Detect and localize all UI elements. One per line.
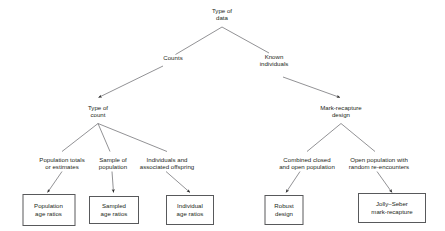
terminal-jolly-seber-mark-recapture[interactable]: Jolly–Seber mark-recapture xyxy=(358,193,426,223)
edge-mark-recapture-to-open-population-random xyxy=(341,124,375,152)
edge-counts-to-type-of-count xyxy=(99,66,164,98)
node-type-of-count: Type of count xyxy=(66,104,130,119)
edge-known-individuals-to-mark-recapture xyxy=(283,77,340,98)
node-counts: Counts xyxy=(145,54,201,61)
terminal-individual-age-ratios[interactable]: Individual age ratios xyxy=(166,195,214,225)
terminal-robust-design[interactable]: Robust design xyxy=(265,195,304,225)
edge-sample-of-population-to-sampled-age-ratios xyxy=(112,172,114,193)
edge-population-totals-to-population-age-ratios xyxy=(48,172,63,193)
edge-mark-recapture-to-combined-closed-open xyxy=(307,124,341,152)
terminal-population-age-ratios[interactable]: Population age ratios xyxy=(22,194,75,226)
terminal-sampled-age-ratios[interactable]: Sampled age ratios xyxy=(89,196,139,224)
edge-type-of-count-to-population-totals xyxy=(62,124,98,152)
node-individuals-and-associated-offspring: Individuals and associated offspring xyxy=(124,156,210,171)
edge-combined-closed-open-to-robust-design xyxy=(286,172,300,193)
node-mark-recapture-design: Mark-recapture design xyxy=(299,104,383,119)
node-type-of-data: Type of data xyxy=(187,7,257,22)
node-known-individuals: Known individuals xyxy=(242,53,306,68)
diagram-canvas: Type of data Counts Known individuals Ty… xyxy=(0,0,445,231)
edge-root-to-counts xyxy=(176,27,223,55)
edge-root-to-known-individuals xyxy=(222,27,269,53)
node-open-population-with-random-re-encounters: Open population with random re-encounter… xyxy=(330,156,428,171)
edge-individuals-offspring-to-individual-age-ratios xyxy=(166,172,190,193)
edge-open-population-random-to-jolly-seber xyxy=(377,172,392,193)
